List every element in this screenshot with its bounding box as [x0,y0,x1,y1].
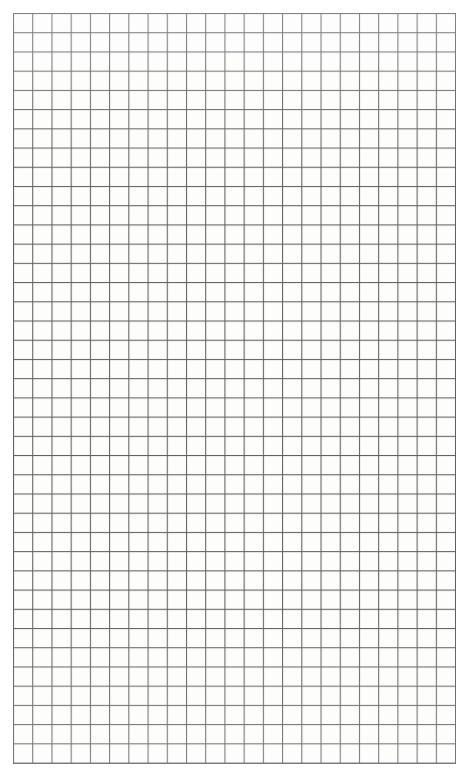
page-canvas [0,0,469,781]
grid-paper-sheet [13,13,455,763]
